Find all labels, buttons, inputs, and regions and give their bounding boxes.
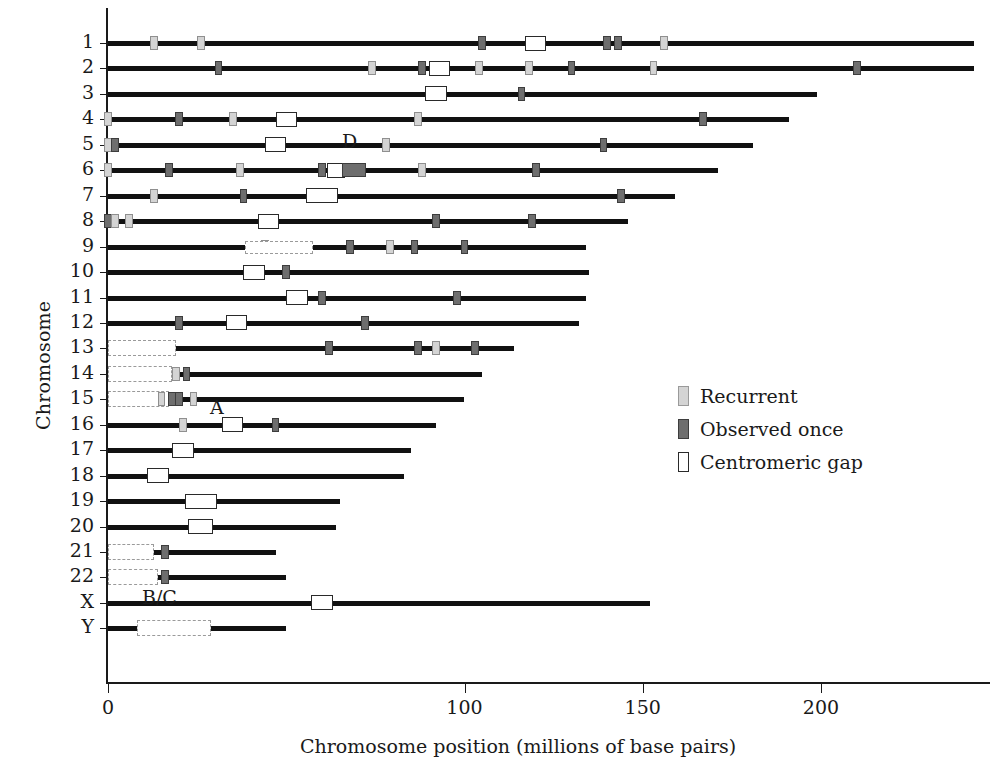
y-tick-19 [100, 501, 108, 502]
chrom-bar-22 [158, 575, 286, 580]
chrom-label-17: 17 [50, 437, 94, 459]
chrom-label-20: 20 [50, 514, 94, 536]
marker-12-once-0 [175, 316, 183, 330]
marker-17-centromere-0 [172, 443, 193, 458]
marker-8-centromere-3 [258, 214, 279, 229]
marker-5-recurrent-3 [382, 138, 390, 152]
x-tick-label-100: 100 [425, 696, 505, 718]
marker-2-centromere-3 [429, 61, 450, 76]
y-tick-1 [100, 43, 108, 44]
chrom-label-12: 12 [50, 310, 94, 332]
x-tick-label-150: 150 [603, 696, 683, 718]
marker-12-centromere-1 [226, 315, 247, 330]
marker-2-once-0 [215, 61, 223, 75]
marker-1-centromere-3 [525, 36, 546, 51]
marker-1-once-4 [603, 36, 611, 50]
marker-4-once-5 [699, 112, 707, 126]
chrom-label-4: 4 [50, 106, 94, 128]
marker-9-acro-1 [245, 241, 313, 254]
marker-6-once-5 [342, 163, 367, 177]
marker-7-once-3 [617, 189, 625, 203]
marker-4-recurrent-4 [414, 112, 422, 126]
chrom-label-18: 18 [50, 463, 94, 485]
legend-item-once: Observed once [678, 418, 844, 440]
chrom-bar-19 [108, 499, 340, 504]
acrocentric-region-Y [137, 620, 212, 636]
marker-9-once-4 [411, 240, 419, 254]
chrom-label-6: 6 [50, 157, 94, 179]
chrom-label-5: 5 [50, 132, 94, 154]
annotation-B-C: B/C [142, 586, 177, 608]
acrocentric-region-21 [108, 544, 154, 560]
x-tick-150 [643, 684, 644, 693]
marker-4-centromere-3 [276, 112, 297, 127]
marker-18-centromere-0 [147, 468, 168, 483]
chrom-bar-14 [172, 372, 482, 377]
marker-4-recurrent-2 [229, 112, 237, 126]
marker-19-centromere-0 [185, 494, 217, 509]
chrom-label-21: 21 [50, 539, 94, 561]
x-tick-200 [821, 684, 822, 693]
marker-1-once-2 [478, 36, 486, 50]
chrom-label-13: 13 [50, 335, 94, 357]
x-tick-label-0: 0 [68, 696, 148, 718]
marker-2-recurrent-7 [650, 61, 658, 75]
legend-label-centromere: Centromeric gap [700, 451, 863, 473]
chrom-bar-21 [154, 550, 275, 555]
chrom-bar-7 [108, 194, 675, 199]
marker-3-centromere-0 [425, 86, 446, 101]
legend-item-centromere: Centromeric gap [678, 451, 863, 473]
marker-13-once-0 [325, 341, 333, 355]
marker-13-once-1 [414, 341, 422, 355]
marker-1-once-5 [614, 36, 622, 50]
acrocentric-region-13 [108, 340, 176, 356]
marker-10-centromere-0 [243, 265, 264, 280]
marker-7-once-1 [240, 189, 248, 203]
y-tick-18 [100, 476, 108, 477]
x-tick-100 [465, 684, 466, 693]
marker-10-once-1 [282, 265, 290, 279]
marker-3-once-1 [518, 87, 526, 101]
chrom-bar-17 [108, 448, 411, 453]
marker-2-recurrent-5 [525, 61, 533, 75]
marker-9-recurrent-3 [386, 240, 394, 254]
marker-6-recurrent-6 [418, 163, 426, 177]
chrom-bar-3 [108, 92, 817, 97]
marker-12-once-2 [361, 316, 369, 330]
legend-swatch-once [678, 419, 689, 439]
y-tick-20 [100, 527, 108, 528]
chrom-label-8: 8 [50, 208, 94, 230]
legend-label-once: Observed once [700, 418, 844, 440]
marker-13-recurrent-2 [432, 341, 440, 355]
marker-14-recurrent-0 [172, 367, 180, 381]
legend-swatch-centromere [678, 452, 689, 472]
chrom-label-X: X [50, 590, 94, 612]
chrom-bar-20 [108, 525, 336, 530]
marker-5-once-4 [600, 138, 608, 152]
marker-5-centromere-2 [265, 137, 286, 152]
x-axis-title: Chromosome position (millions of base pa… [300, 735, 736, 757]
marker-15-recurrent-0 [158, 392, 166, 406]
chrom-bar-prefix-Y [108, 626, 137, 631]
chrom-label-11: 11 [50, 285, 94, 307]
legend-item-recurrent: Recurrent [678, 385, 798, 407]
marker-11-once-1 [318, 291, 326, 305]
y-tick-10 [100, 272, 108, 273]
chrom-label-3: 3 [50, 81, 94, 103]
marker-6-recurrent-2 [236, 163, 244, 177]
marker-11-centromere-0 [286, 290, 307, 305]
y-tick-14 [100, 374, 108, 375]
marker-2-once-2 [418, 61, 426, 75]
marker-2-recurrent-1 [368, 61, 376, 75]
y-tick-11 [100, 298, 108, 299]
marker-9-once-2 [346, 240, 354, 254]
chrom-label-Y: Y [50, 615, 94, 637]
marker-16-recurrent-0 [179, 418, 187, 432]
marker-2-once-6 [568, 61, 576, 75]
acrocentric-region-22 [108, 569, 158, 585]
chrom-label-14: 14 [50, 361, 94, 383]
marker-20-centromere-0 [188, 519, 213, 534]
y-tick-13 [100, 348, 108, 349]
x-tick-label-200: 200 [781, 696, 861, 718]
y-tick-2 [100, 68, 108, 69]
